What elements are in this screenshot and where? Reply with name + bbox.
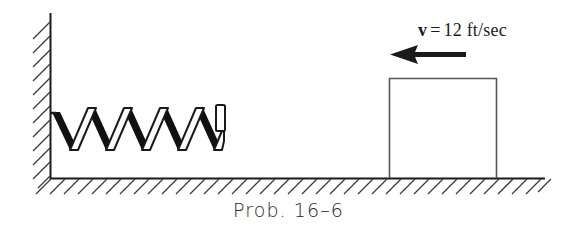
spring-front-coils [70,108,224,150]
ground-group [36,179,551,195]
velocity-equals-sign: = [430,20,440,40]
velocity-label: v=12 ft/sec [418,20,507,41]
velocity-symbol: v [418,20,427,40]
spring-group [50,105,225,150]
spring-end-cap [216,105,225,131]
block-outline [390,79,497,179]
ground-hatching [36,179,551,194]
figure-caption: Prob. 16–6 [0,199,577,221]
velocity-value: 12 ft/sec [444,20,507,40]
physics-problem-figure: v=12 ft/sec Prob. 16–6 [0,0,577,242]
block-group [390,79,497,179]
arrow-head [390,45,418,64]
velocity-arrow [390,45,466,64]
wall-hatching [33,22,50,188]
wall-group [33,13,51,188]
